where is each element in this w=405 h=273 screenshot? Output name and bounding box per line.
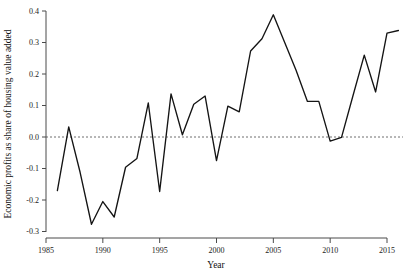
x-axis-tick-label: 1990 [95, 246, 111, 255]
line-chart: -0.3-0.2-0.10.00.10.20.30.4 198519901995… [0, 0, 405, 273]
y-axis-tick-label: 0.3 [29, 38, 39, 47]
y-axis-tick-label: 0.0 [29, 133, 39, 142]
x-axis-tick-label: 2000 [209, 246, 225, 255]
chart-container: -0.3-0.2-0.10.00.10.20.30.4 198519901995… [0, 0, 405, 273]
x-axis-tick-label: 2015 [379, 246, 395, 255]
y-axis-tick-label: 0.4 [29, 7, 39, 16]
y-axis-tick-label: -0.3 [26, 227, 39, 236]
x-axis-tick-label: 2005 [265, 246, 281, 255]
y-axis-tick-label: -0.1 [26, 164, 39, 173]
x-axis-tick-label: 1995 [152, 246, 168, 255]
y-axis-tick-label: 0.2 [29, 70, 39, 79]
y-axis-title: Economic profits as share of housing val… [3, 29, 13, 218]
x-axis-tick-label: 1985 [38, 246, 54, 255]
x-axis-title: Year [207, 260, 225, 270]
y-axis-tick-label: -0.2 [26, 196, 39, 205]
y-axis-tick-label: 0.1 [29, 101, 39, 110]
x-axis-tick-label: 2010 [322, 246, 338, 255]
